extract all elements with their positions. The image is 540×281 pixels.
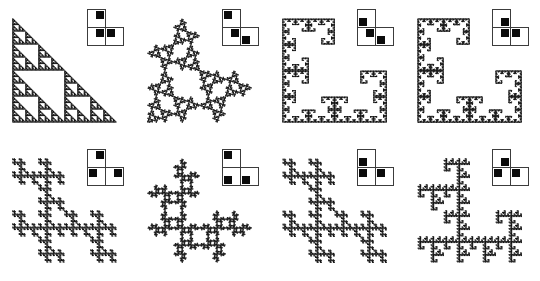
generator-inset-sierpinski-triangle <box>87 9 124 46</box>
orientation-marker-tl-icon <box>224 151 232 159</box>
fractal-panel-rotated-triangle-clusters <box>135 0 270 140</box>
orientation-marker-tl-icon <box>224 11 232 19</box>
orientation-marker-tl-icon <box>377 169 385 177</box>
generator-cell-bl <box>87 27 106 46</box>
generator-cell-br <box>375 27 394 46</box>
generator-cell-br <box>375 167 394 186</box>
generator-inset-diagonal-stripes <box>87 149 124 186</box>
orientation-marker-tl-icon <box>359 169 367 177</box>
generator-cell-br <box>105 167 124 186</box>
orientation-marker-tl-icon <box>512 29 520 37</box>
fractal-panel-cross-chain-clusters <box>135 140 270 280</box>
generator-cell-bl <box>222 27 241 46</box>
generator-inset-rotated-triangle-clusters <box>222 9 259 46</box>
orientation-marker-bl-icon <box>359 18 367 26</box>
generator-cell-bl <box>87 167 106 186</box>
fractal-panel-rosette-clusters <box>270 0 405 140</box>
orientation-marker-tl-icon <box>107 29 115 37</box>
generator-cell-br <box>105 27 124 46</box>
orientation-marker-tl-icon <box>494 169 502 177</box>
orientation-marker-tr-icon <box>96 151 104 159</box>
orientation-marker-bl-icon <box>242 176 250 184</box>
orientation-marker-tr-icon <box>114 169 122 177</box>
fractal-panel-sierpinski-triangle <box>0 0 135 140</box>
orientation-marker-tl-icon <box>89 169 97 177</box>
generator-cell-tl <box>87 149 106 168</box>
generator-cell-bl <box>357 27 376 46</box>
orientation-marker-br-icon <box>501 158 509 166</box>
orientation-marker-bl-icon <box>224 176 232 184</box>
generator-inset-double-arrow-diagonal <box>357 149 394 186</box>
orientation-marker-tr-icon <box>501 29 509 37</box>
generator-cell-tl <box>87 9 106 28</box>
generator-cell-bl <box>357 167 376 186</box>
generator-cell-br <box>510 27 529 46</box>
fractal-panel-diagonal-stripes <box>0 140 135 280</box>
generator-cell-bl <box>492 27 511 46</box>
fractal-generator-figure <box>0 0 540 281</box>
generator-cell-tl <box>357 9 376 28</box>
generator-cell-tl <box>222 9 241 28</box>
orientation-marker-bl-icon <box>377 36 385 44</box>
orientation-marker-tr-icon <box>96 11 104 19</box>
generator-cell-tl <box>492 149 511 168</box>
fractal-panel-l-shaped-boundary-curve <box>405 0 540 140</box>
generator-cell-br <box>240 27 259 46</box>
generator-cell-br <box>240 167 259 186</box>
orientation-marker-bl-icon <box>359 158 367 166</box>
generator-inset-l-shaped-boundary-curve <box>492 9 529 46</box>
generator-cell-bl <box>222 167 241 186</box>
orientation-marker-tl-icon <box>512 169 520 177</box>
orientation-marker-bl-icon <box>242 36 250 44</box>
generator-cell-bl <box>492 167 511 186</box>
orientation-marker-tr-icon <box>366 29 374 37</box>
generator-cell-br <box>510 167 529 186</box>
generator-cell-tl <box>222 149 241 168</box>
orientation-marker-tr-icon <box>231 29 239 37</box>
generator-inset-cross-chain-clusters <box>222 149 259 186</box>
generator-inset-spiral-curls <box>492 149 529 186</box>
orientation-marker-tr-icon <box>96 29 104 37</box>
fractal-panel-spiral-curls <box>405 140 540 280</box>
generator-cell-tl <box>357 149 376 168</box>
fractal-panel-double-arrow-diagonal <box>270 140 405 280</box>
orientation-marker-br-icon <box>501 18 509 26</box>
generator-cell-tl <box>492 9 511 28</box>
generator-inset-rosette-clusters <box>357 9 394 46</box>
